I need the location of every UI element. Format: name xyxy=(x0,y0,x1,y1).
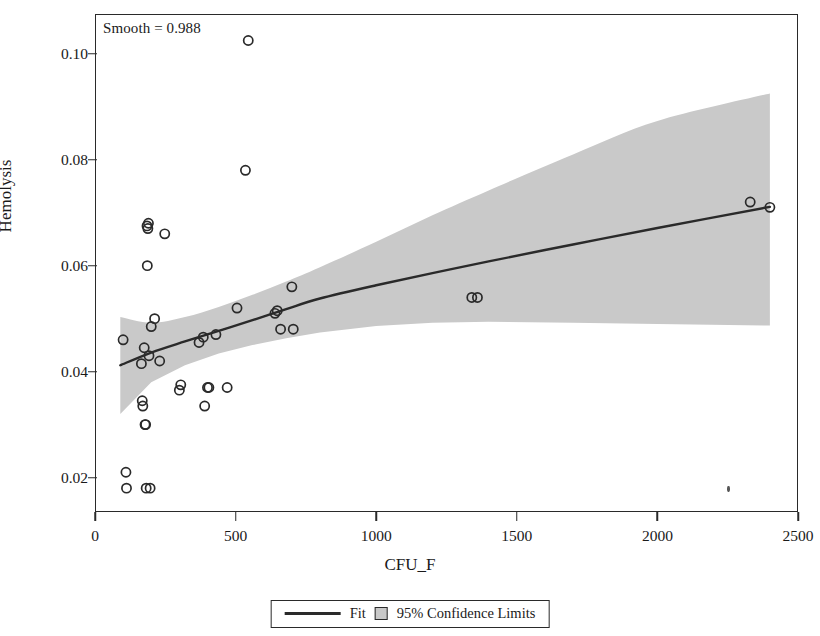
y-tick-label: 0.10 xyxy=(61,45,88,63)
smooth-annotation: Smooth = 0.988 xyxy=(103,20,201,37)
y-tick-label: 0.08 xyxy=(61,151,88,169)
legend-fit-line-icon xyxy=(285,612,341,614)
y-tick-label: 0.06 xyxy=(61,257,88,275)
plot-frame xyxy=(95,14,798,512)
y-tick-label: 0.02 xyxy=(61,469,88,487)
chart-legend: Fit 95% Confidence Limits xyxy=(271,600,550,628)
chart-root: Hemolysis CFU_F 0.020.040.060.080.10 050… xyxy=(0,0,820,636)
plot-area: Smooth = 0.988 xyxy=(95,14,798,512)
x-tick-label: 2000 xyxy=(642,527,673,545)
x-tick-label: 500 xyxy=(224,527,247,545)
x-tick-label: 0 xyxy=(91,527,99,545)
legend-label-confidence: 95% Confidence Limits xyxy=(397,605,536,622)
x-tick-label: 1500 xyxy=(501,527,532,545)
legend-label-fit: Fit xyxy=(350,605,366,622)
x-tick-label: 2500 xyxy=(783,527,814,545)
x-tick-label: 1000 xyxy=(361,527,392,545)
legend-confidence-swatch-icon xyxy=(375,607,388,620)
x-axis-tick-labels: 05001000150020002500 xyxy=(0,519,820,545)
x-axis-label: CFU_F xyxy=(0,555,820,575)
y-tick-label: 0.04 xyxy=(61,363,88,381)
page-speck xyxy=(727,486,730,492)
